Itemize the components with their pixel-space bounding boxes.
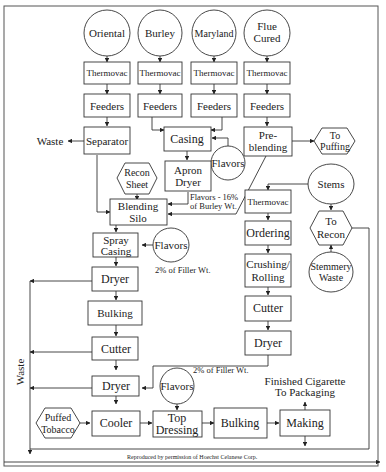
feeders-label: Feeders (90, 100, 124, 112)
cutter-1: Cutter (92, 337, 138, 360)
pre-blending: Pre- blending (244, 127, 292, 156)
casing-label: Casing (170, 132, 203, 146)
thermovac-stems: Thermovac (245, 190, 291, 213)
stemmery-label-1: Stemmery (310, 261, 351, 272)
feeders-oriental: Feeders (84, 94, 130, 117)
blending-silo-label-1: Blending (118, 200, 159, 212)
process-flow-diagram: Oriental Burley Maryland Flue Cured Ther… (0, 0, 386, 472)
cooler-label: Cooler (100, 416, 133, 430)
top-dressing-label-2: Dressing (156, 423, 199, 437)
thermovac-flue: Thermovac (244, 62, 290, 84)
blending-silo: Blending Silo (110, 199, 167, 225)
making: Making (280, 410, 330, 436)
top-dressing: Top Dressing (153, 411, 202, 437)
source-burley: Burley (138, 10, 182, 56)
cutter-label: Cutter (101, 342, 131, 356)
flavors-label: Flavors (212, 157, 245, 169)
thermovac-label: Thermovac (247, 68, 288, 78)
source-maryland-label: Maryland (195, 28, 234, 39)
stemmery-waste: Stemmery Waste (309, 252, 353, 292)
recon-sheet-label-2: Sheet (126, 179, 148, 190)
source-oriental: Oriental (84, 10, 130, 56)
stemmery-label-2: Waste (319, 272, 344, 283)
flavors-label: Flavors (155, 239, 188, 251)
source-cured-label: Cured (254, 32, 281, 44)
separator-label: Separator (86, 135, 128, 147)
making-label: Making (286, 416, 323, 430)
thermovac-oriental: Thermovac (84, 62, 130, 84)
crushing-rolling: Crushing/ Rolling (245, 254, 291, 287)
casing: Casing (164, 127, 211, 151)
dryer-label: Dryer (101, 272, 129, 286)
crushing-label-2: Rolling (251, 271, 285, 283)
flavors-spray: Flavors (153, 228, 189, 262)
thermovac-label: Thermovac (248, 197, 289, 207)
ordering-label: Ordering (246, 226, 289, 240)
stems: Stems (308, 164, 354, 204)
to-puffing: To Puffing (314, 128, 355, 154)
bulking-label: Bulking (221, 416, 260, 430)
bulking-1: Bulking (88, 301, 142, 325)
puffed-label-2: Tobacco (41, 424, 75, 435)
bulking-label: Bulking (97, 307, 133, 319)
source-maryland: Maryland (192, 10, 236, 56)
bulking-2: Bulking (214, 408, 267, 438)
spray-casing: Spray Casing (93, 233, 138, 257)
filler-note-1: 2% of Filler Wt. (155, 265, 211, 275)
thermovac-label: Thermovac (194, 68, 235, 78)
dryer-1: Dryer (92, 267, 138, 291)
spray-casing-label-2: Casing (101, 245, 132, 257)
to-recon-label-2: Recon (317, 228, 346, 240)
source-flue-label: Flue (257, 20, 277, 32)
flavors-note-2: of Burley Wt. (190, 201, 237, 211)
ordering: Ordering (245, 221, 291, 245)
stems-label: Stems (318, 178, 345, 190)
feeders-maryland: Feeders (191, 94, 237, 117)
caption: Reproduced by permission of Hoechst Cela… (127, 454, 258, 460)
pre-blending-label-1: Pre- (259, 129, 278, 141)
to-recon: To Recon (310, 211, 352, 245)
thermovac-maryland: Thermovac (191, 62, 237, 84)
feeders-flue: Feeders (244, 94, 290, 117)
to-recon-label-1: To (325, 215, 337, 227)
thermovac-burley: Thermovac (138, 62, 182, 84)
flavors-casing: Flavors (211, 146, 245, 180)
finished-label-2: To Packaging (275, 386, 336, 398)
cutter-2: Cutter (245, 296, 291, 321)
dryer-2: Dryer (92, 376, 139, 396)
feeders-label: Feeders (143, 100, 177, 112)
blending-silo-label-2: Silo (129, 212, 147, 224)
apron-dryer: Apron Dryer (165, 161, 211, 191)
filler-note-2: 2% of Filler Wt. (193, 365, 249, 375)
source-oriental-label: Oriental (89, 27, 125, 39)
crushing-label-1: Crushing/ (246, 258, 290, 270)
separator: Separator (84, 127, 130, 154)
to-puffing-label-1: To (330, 130, 340, 141)
dryer-label: Dryer (102, 379, 130, 393)
waste-vertical-label: Waste (14, 359, 26, 386)
source-flue-cured: Flue Cured (244, 10, 290, 56)
apron-dryer-label-2: Dryer (175, 176, 201, 188)
recon-sheet-label-1: Recon (124, 167, 150, 178)
dryer-3: Dryer (245, 331, 291, 355)
feeders-label: Feeders (197, 100, 231, 112)
feeders-label: Feeders (250, 100, 284, 112)
waste-label: Waste (37, 135, 64, 147)
puffed-tobacco: Puffed Tobacco (36, 408, 80, 438)
source-burley-label: Burley (145, 27, 175, 39)
pre-blending-label-2: blending (249, 141, 288, 153)
thermovac-label: Thermovac (87, 68, 128, 78)
cutter-label: Cutter (253, 301, 283, 315)
puffed-label-1: Puffed (45, 412, 71, 423)
flavors-top: Flavors (160, 368, 194, 404)
apron-dryer-label-1: Apron (174, 164, 203, 176)
cooler: Cooler (92, 411, 140, 436)
recon-sheet: Recon Sheet (117, 163, 157, 194)
thermovac-label: Thermovac (140, 68, 181, 78)
to-puffing-label-2: Puffing (320, 141, 350, 152)
feeders-burley: Feeders (138, 94, 182, 117)
dryer-label: Dryer (254, 336, 282, 350)
flavors-label: Flavors (161, 380, 194, 392)
